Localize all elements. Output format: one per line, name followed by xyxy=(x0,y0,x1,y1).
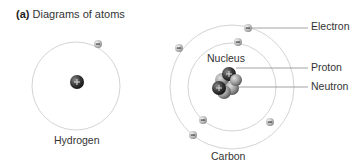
electron-label: Electron xyxy=(311,20,350,32)
nucleus-icon xyxy=(212,67,242,99)
electron-icon xyxy=(175,44,183,52)
hydrogen-atom xyxy=(32,40,120,130)
proton-icon xyxy=(70,75,84,89)
hydrogen-label: Hydrogen xyxy=(54,134,100,146)
electron-icon xyxy=(266,118,274,126)
electron-icon xyxy=(244,24,252,32)
carbon-atom xyxy=(170,24,308,149)
electron-icon xyxy=(189,131,197,139)
electron-icon xyxy=(199,116,207,124)
carbon-label: Carbon xyxy=(211,150,245,162)
nucleus-label: Nucleus xyxy=(207,52,245,64)
electron-icon xyxy=(234,38,242,46)
neutron-label: Neutron xyxy=(311,80,348,92)
proton-label: Proton xyxy=(311,61,342,73)
electron-icon xyxy=(94,40,102,48)
